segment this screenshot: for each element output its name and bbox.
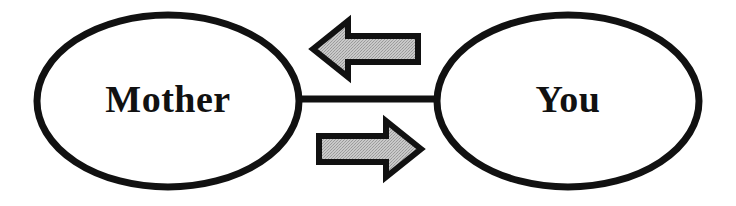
node-mother[interactable]: Mother bbox=[37, 15, 299, 187]
arrow-right-shape bbox=[319, 121, 421, 177]
node-label-you: You bbox=[536, 78, 601, 120]
node-label-mother: Mother bbox=[105, 78, 230, 120]
arrow-left-icon[interactable] bbox=[313, 21, 418, 77]
arrow-left-shape bbox=[313, 21, 418, 77]
diagram-canvas-svg: Mother You bbox=[0, 0, 736, 206]
node-you[interactable]: You bbox=[437, 15, 699, 187]
relationship-diagram: Mother You bbox=[0, 0, 736, 206]
arrow-right-icon[interactable] bbox=[319, 121, 421, 177]
